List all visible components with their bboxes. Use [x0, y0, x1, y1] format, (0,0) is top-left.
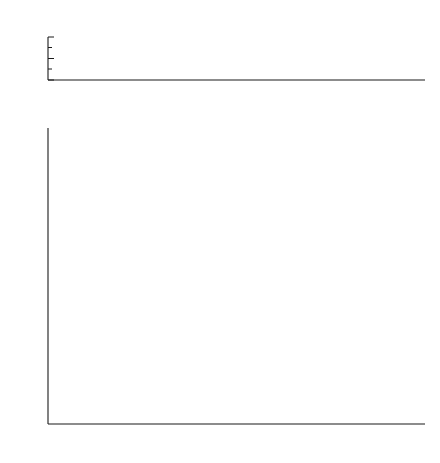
top-panel-y-ticks: [48, 37, 54, 80]
figure-canvas: [0, 0, 440, 463]
main-panel: [0, 0, 425, 424]
top-panel: [31, 37, 425, 96]
